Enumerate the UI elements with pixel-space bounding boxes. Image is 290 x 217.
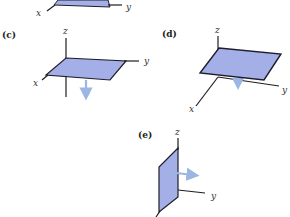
panel-b: x y <box>36 0 132 18</box>
x-label-c: x <box>33 78 38 88</box>
x-label-d: x <box>189 104 194 114</box>
plane-d <box>200 48 281 80</box>
plane-c <box>46 58 126 80</box>
y-label-c: y <box>143 56 150 66</box>
panel-c: (c) z y x <box>2 26 150 97</box>
y-axis-e <box>178 190 205 193</box>
x-axis-c <box>42 75 48 80</box>
y-label-d: y <box>281 85 288 95</box>
panel-e: (e) z y <box>138 127 217 217</box>
z-label-d: z <box>214 25 220 35</box>
x-label-b: x <box>36 8 41 18</box>
plane-b <box>54 0 110 7</box>
z-label-e: z <box>174 127 180 137</box>
z-label-c: z <box>62 26 68 36</box>
y-label-e: y <box>210 191 217 201</box>
plane-e <box>159 148 178 212</box>
panel-label-e: (e) <box>138 130 152 140</box>
figure: x y (c) z y x (d) z y x (e) z y <box>0 0 290 217</box>
x-axis-b <box>47 5 55 11</box>
x-axis-d <box>196 77 218 106</box>
panel-d: (d) z y x <box>162 25 288 114</box>
panel-label-d: (d) <box>162 29 177 39</box>
panel-label-c: (c) <box>2 30 16 40</box>
bottom-axis-e <box>156 211 160 217</box>
y-label-b: y <box>125 2 132 12</box>
